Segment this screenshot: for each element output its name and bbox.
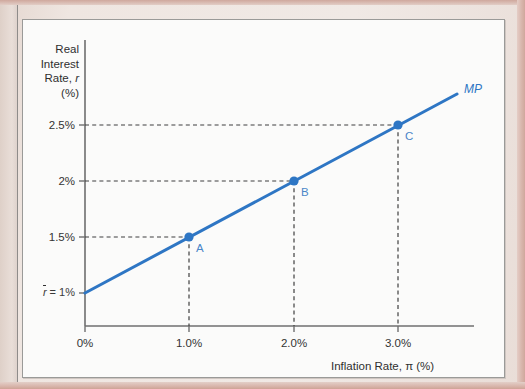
- chart-panel: Real Interest Rate, r (%) 2.5% 2% 1.5% r…: [22, 19, 505, 378]
- data-point-marker-b[interactable]: [289, 176, 298, 185]
- data-point-label-a: A: [196, 242, 204, 254]
- y-intercept-value: = 1%: [50, 286, 75, 298]
- data-point-marker-c[interactable]: [393, 120, 402, 129]
- y-axis-title-line-1: Real: [23, 42, 79, 57]
- page-spine-shadow: [0, 0, 17, 389]
- y-axis-title-line-3: Rate, r: [23, 71, 79, 86]
- y-axis-title-line-4: (%): [23, 86, 79, 101]
- chart-plot-area: [23, 20, 504, 377]
- x-tick-label-2: 2.0%: [264, 337, 324, 350]
- page-frame-bottom: [0, 382, 525, 389]
- y-tick-label-2.5: 2.5%: [23, 119, 75, 132]
- data-point-marker-a[interactable]: [184, 232, 193, 241]
- mp-curve-label: MP: [464, 82, 482, 96]
- x-tick-label-3: 3.0%: [368, 337, 428, 350]
- data-point-label-c: C: [405, 130, 413, 142]
- x-tick-label-0: 0%: [55, 337, 115, 350]
- data-point-label-b: B: [301, 186, 309, 198]
- x-axis-title: Inflation Rate, π (%): [331, 360, 434, 372]
- x-tick-label-1: 1.0%: [159, 337, 219, 350]
- y-tick-label-2: 2%: [23, 175, 75, 188]
- y-axis-title-line-2: Interest: [23, 57, 79, 72]
- y-axis-title-variable: r: [75, 72, 79, 84]
- y-axis-title: Real Interest Rate, r (%): [23, 42, 79, 100]
- y-tick-label-1.5: 1.5%: [23, 231, 75, 244]
- figure-page: Real Interest Rate, r (%) 2.5% 2% 1.5% r…: [0, 0, 525, 389]
- y-intercept-label: r = 1%: [23, 286, 75, 299]
- page-spine-line: [17, 0, 18, 389]
- r-bar-symbol: r: [43, 286, 47, 299]
- page-frame-right: [517, 0, 525, 389]
- page-frame-top: [0, 0, 525, 5]
